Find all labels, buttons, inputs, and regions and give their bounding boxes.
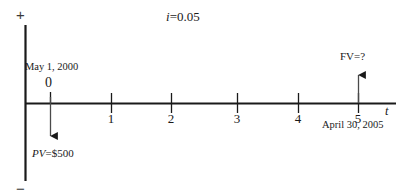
present-value-symbol: PV [32, 147, 45, 159]
tick-label-2: 2 [168, 112, 175, 125]
tick-label-4: 4 [295, 112, 302, 125]
interest-rate-equals: = [170, 9, 177, 24]
future-value-label: FV=? [340, 51, 365, 62]
interest-rate-label: i=0.05 [166, 10, 200, 23]
start-date-label: May 1, 2000 [25, 62, 78, 73]
time-axis-label: t [385, 105, 388, 118]
tick-label-3: 3 [234, 112, 241, 125]
tick-label-1: 1 [108, 112, 115, 125]
positive-sign: + [16, 7, 25, 22]
period-zero-label: 0 [45, 76, 52, 90]
end-date-label: April 30, 2005 [322, 120, 384, 131]
future-value-symbol: FV [340, 50, 354, 62]
time-line-figure: + − i=0.05 May 1, 2000 0 April 30, 2005 … [0, 0, 408, 196]
present-value-label: PV=$500 [32, 148, 74, 159]
interest-rate-value: 0.05 [177, 9, 200, 24]
future-value-amount: ? [360, 50, 365, 62]
present-value-amount: $500 [52, 147, 74, 159]
time-line-canvas [0, 0, 408, 196]
negative-sign: − [16, 181, 25, 196]
tick-label-5: 5 [355, 112, 362, 125]
